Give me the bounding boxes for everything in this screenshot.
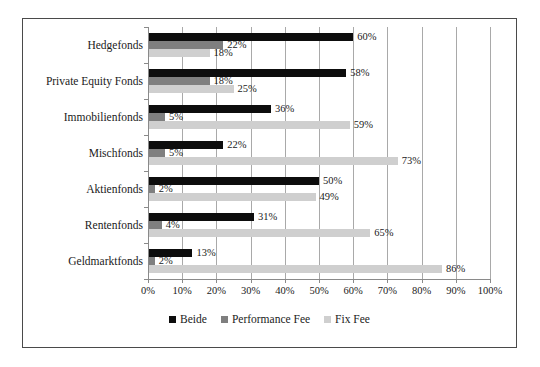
x-tick-30 — [251, 279, 252, 283]
bar[interactable] — [148, 149, 165, 157]
category-label-aktienfonds: Aktienfonds — [25, 183, 143, 195]
legend-item-performance[interactable]: Performance Fee — [221, 313, 310, 325]
bar-value-label: 59% — [354, 120, 373, 130]
bar-value-label: 73% — [402, 156, 421, 166]
category-label-private-equity-fonds: Private Equity Fonds — [25, 75, 143, 87]
bar[interactable] — [148, 85, 234, 93]
legend-item-beide[interactable]: Beide — [169, 313, 207, 325]
legend-swatch-icon — [169, 316, 176, 323]
category-label-rentenfonds: Rentenfonds — [25, 219, 143, 231]
y-tick — [144, 243, 148, 244]
x-tick-0 — [148, 279, 149, 283]
bar[interactable] — [148, 177, 319, 185]
category-label-geldmarktfonds: Geldmarktfonds — [25, 255, 143, 267]
bar-value-label: 13% — [196, 248, 215, 258]
bar[interactable] — [148, 229, 370, 237]
y-tick — [144, 99, 148, 100]
bar-value-label: 31% — [258, 212, 277, 222]
y-tick — [144, 27, 148, 28]
bar[interactable] — [148, 33, 353, 41]
bar[interactable] — [148, 265, 442, 273]
x-tick-100 — [490, 279, 491, 283]
bar[interactable] — [148, 49, 210, 57]
legend-label: Fix Fee — [335, 313, 370, 325]
bar-group: 13%2%86% — [148, 243, 490, 279]
legend-label: Performance Fee — [232, 313, 310, 325]
bar-group: 36%5%59% — [148, 99, 490, 135]
category-label-immobilienfonds: Immobilienfonds — [25, 111, 143, 123]
bar[interactable] — [148, 121, 350, 129]
y-tick — [144, 207, 148, 208]
plot-area: 60%22%18%58%18%25%36%5%59%22%5%73%50%2%4… — [148, 27, 490, 279]
legend-swatch-icon — [221, 316, 228, 323]
bar-value-label: 50% — [323, 176, 342, 186]
bar-value-label: 36% — [275, 104, 294, 114]
bar-value-label: 22% — [227, 140, 246, 150]
bar-group: 31%4%65% — [148, 207, 490, 243]
bar-value-label: 86% — [446, 264, 465, 274]
bar[interactable] — [148, 113, 165, 121]
bar-value-label: 58% — [350, 68, 369, 78]
gridline-100 — [490, 27, 491, 279]
x-tick-label-100: 100% — [470, 285, 510, 296]
bar-value-label: 60% — [357, 32, 376, 42]
bar-value-label: 18% — [214, 48, 233, 58]
y-tick — [144, 135, 148, 136]
bar[interactable] — [148, 77, 210, 85]
x-tick-10 — [182, 279, 183, 283]
x-tick-60 — [353, 279, 354, 283]
x-tick-40 — [285, 279, 286, 283]
bar[interactable] — [148, 221, 162, 229]
bar[interactable] — [148, 105, 271, 113]
y-tick — [144, 171, 148, 172]
x-tick-20 — [216, 279, 217, 283]
chart-frame: HedgefondsPrivate Equity FondsImmobilien… — [22, 18, 517, 348]
x-tick-80 — [422, 279, 423, 283]
x-tick-50 — [319, 279, 320, 283]
bar[interactable] — [148, 157, 398, 165]
bar-group: 22%5%73% — [148, 135, 490, 171]
category-axis-labels: HedgefondsPrivate Equity FondsImmobilien… — [23, 27, 143, 279]
legend-swatch-icon — [324, 316, 331, 323]
x-tick-90 — [456, 279, 457, 283]
bar[interactable] — [148, 41, 223, 49]
x-tick-70 — [387, 279, 388, 283]
y-axis-line — [148, 27, 149, 280]
bar[interactable] — [148, 213, 254, 221]
legend-label: Beide — [180, 313, 207, 325]
y-tick — [144, 279, 148, 280]
bar-value-label: 25% — [238, 84, 257, 94]
bar-group: 60%22%18% — [148, 27, 490, 63]
bar[interactable] — [148, 257, 155, 265]
chart-legend: BeidePerformance FeeFix Fee — [23, 313, 516, 325]
bar-value-label: 65% — [374, 228, 393, 238]
bar-group: 58%18%25% — [148, 63, 490, 99]
legend-item-fix[interactable]: Fix Fee — [324, 313, 370, 325]
y-tick — [144, 63, 148, 64]
bar[interactable] — [148, 141, 223, 149]
category-label-hedgefonds: Hedgefonds — [25, 39, 143, 51]
category-label-mischfonds: Mischfonds — [25, 147, 143, 159]
bar[interactable] — [148, 69, 346, 77]
bar[interactable] — [148, 193, 316, 201]
bar-group: 50%2%49% — [148, 171, 490, 207]
bar[interactable] — [148, 185, 155, 193]
bar-value-label: 49% — [320, 192, 339, 202]
